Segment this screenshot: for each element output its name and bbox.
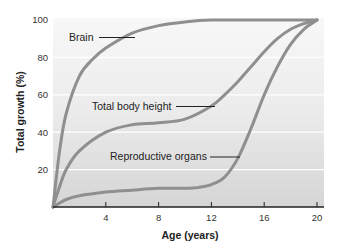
y-tick-label: 40 bbox=[37, 127, 48, 138]
y-tick-label: 100 bbox=[32, 14, 48, 25]
x-tick-label: 16 bbox=[259, 212, 270, 223]
x-axis-title: Age (years) bbox=[161, 229, 218, 241]
x-tick-labels: 4 8 12 16 20 bbox=[103, 212, 322, 223]
annotation-label: Reproductive organs bbox=[110, 150, 207, 162]
y-tick-label: 20 bbox=[37, 164, 48, 175]
growth-chart: 4 8 12 16 20 Age (years) 20 40 60 80 100… bbox=[0, 0, 342, 249]
plot-background bbox=[53, 18, 324, 207]
y-tick-label: 80 bbox=[37, 52, 48, 63]
x-tick-label: 8 bbox=[156, 212, 161, 223]
y-axis-title: Total growth (%) bbox=[14, 71, 26, 152]
x-tick-label: 20 bbox=[312, 212, 323, 223]
y-tick-label: 60 bbox=[37, 89, 48, 100]
x-tick-label: 12 bbox=[206, 212, 217, 223]
annotation-label: Brain bbox=[69, 31, 94, 43]
y-tick-labels: 20 40 60 80 100 bbox=[32, 14, 48, 175]
annotation-label: Total body height bbox=[92, 100, 171, 112]
x-tick-label: 4 bbox=[103, 212, 108, 223]
